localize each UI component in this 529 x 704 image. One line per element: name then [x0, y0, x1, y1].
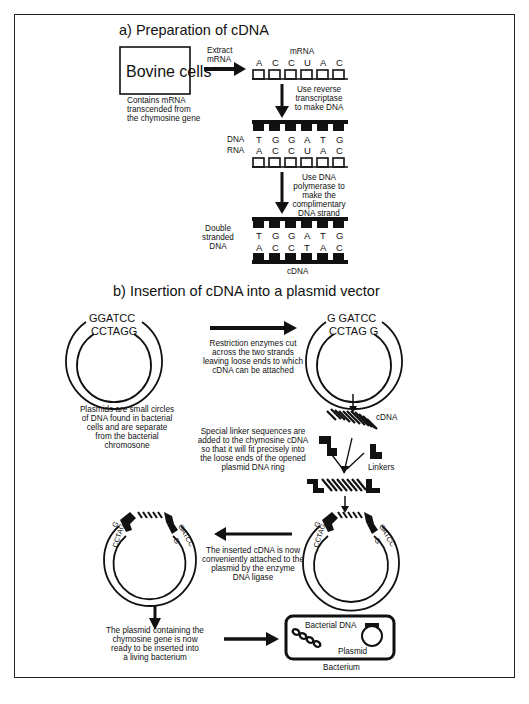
svg-text:DNA ligase: DNA ligase [233, 573, 274, 582]
hybrid-rna-bases: A C C U A C [256, 145, 343, 156]
svg-text:so that it will fit precisely: so that it will fit precisely into [201, 445, 305, 454]
svg-text:T: T [320, 134, 326, 145]
svg-text:the loose ends of the opened: the loose ends of the opened [200, 454, 306, 463]
svg-text:Special linker sequences are: Special linker sequences are [201, 427, 306, 436]
svg-text:leaving loose ends to which: leaving loose ends to which [203, 357, 304, 366]
svg-text:G: G [336, 134, 343, 145]
cdna-diagram: a) Preparation of cDNA Bovine cells Cont… [0, 0, 529, 704]
svg-text:G: G [336, 230, 343, 241]
plasmid-in-bacterium-icon [362, 623, 382, 646]
plasmid-with-insert-right: CCTAG G GATCC G [303, 512, 399, 611]
cdna-label-b: cDNA [376, 413, 398, 422]
hybrid-rna-label: RNA [227, 146, 245, 155]
linkers-label: Linkers [368, 463, 394, 472]
reverse-transcriptase-caption: Use reverse transcriptase to make DNA [295, 85, 344, 112]
mrna-label: mRNA [290, 47, 315, 56]
svg-text:G: G [288, 134, 295, 145]
svg-text:C: C [288, 57, 295, 68]
plasmid-label: Plasmid [338, 647, 368, 656]
polymerase-caption: Use DNA polymerase to make the complimen… [292, 173, 346, 218]
ds-top-strand [252, 217, 348, 228]
svg-text:C: C [336, 242, 343, 253]
svg-text:T: T [256, 230, 262, 241]
svg-text:chromosone: chromosone [104, 441, 150, 450]
bovine-cells-label: Bovine cells [126, 63, 211, 80]
section-a-title: a) Preparation of cDNA [119, 22, 269, 38]
plasmid-caption: Plasmids are small circles of DNA found … [80, 405, 174, 450]
plasmid1-bottom-seq: CCTAGG [91, 325, 137, 337]
svg-text:C: C [272, 145, 279, 156]
svg-text:ready to be inserted into: ready to be inserted into [111, 644, 199, 653]
svg-text:Use DNA: Use DNA [302, 173, 337, 182]
plasmid1-top-seq: GGATCC [89, 312, 135, 324]
restriction-caption: Restriction enzymes cut across the two s… [203, 339, 304, 375]
ds-bottom-bases: A C C T A C [256, 242, 343, 253]
plasmid-with-insert-left: CCTAG G GATCC G [104, 512, 196, 606]
svg-text:Restriction enzymes cut: Restriction enzymes cut [210, 339, 298, 348]
cdna-with-linkers [307, 479, 380, 493]
linker-right-icon [370, 444, 382, 459]
svg-text:cells and are separate: cells and are separate [87, 423, 168, 432]
svg-text:conveniently attached to the: conveniently attached to the [202, 555, 304, 564]
svg-text:T: T [304, 242, 310, 253]
svg-text:mRNA: mRNA [207, 55, 232, 64]
svg-text:stranded: stranded [202, 233, 234, 242]
svg-text:added to the chymosine cDNA: added to the chymosine cDNA [198, 436, 309, 445]
bacterial-dna-label: Bacterial DNA [305, 621, 357, 630]
svg-text:G: G [272, 230, 279, 241]
bacterial-dna-icon [292, 628, 322, 648]
svg-text:A: A [320, 242, 327, 253]
cdna-label-a: cDNA [287, 267, 309, 276]
svg-text:make the: make the [302, 191, 336, 200]
svg-text:Plasmids are small circles: Plasmids are small circles [80, 405, 174, 414]
svg-text:C: C [336, 57, 343, 68]
svg-text:Contains mRNA: Contains mRNA [127, 96, 186, 105]
cell-caption: Contains mRNA transcended from the chymo… [127, 96, 201, 123]
svg-text:transcriptase: transcriptase [296, 94, 343, 103]
svg-text:to make DNA: to make DNA [295, 103, 344, 112]
hybrid-dna-bases: T G G A T G [256, 134, 343, 145]
svg-text:The inserted cDNA is now: The inserted cDNA is now [206, 546, 300, 555]
svg-text:of DNA found in bacterial: of DNA found in bacterial [82, 414, 173, 423]
svg-text:C: C [272, 57, 279, 68]
cdna-fragment [327, 409, 377, 429]
svg-text:A: A [320, 145, 327, 156]
svg-text:T: T [256, 134, 262, 145]
svg-text:Double: Double [205, 224, 231, 233]
svg-text:The plasmid containing the: The plasmid containing the [106, 626, 204, 635]
ds-bottom-strand [252, 253, 348, 264]
mrna-strand [252, 70, 348, 79]
svg-text:transcended from: transcended from [127, 105, 191, 114]
svg-text:A: A [320, 57, 327, 68]
svg-text:T: T [320, 230, 326, 241]
svg-text:across the two strands: across the two strands [212, 348, 294, 357]
svg-text:plasmid DNA ring: plasmid DNA ring [221, 463, 285, 472]
svg-text:A: A [256, 145, 263, 156]
svg-text:chymosine gene is now: chymosine gene is now [112, 635, 197, 644]
svg-text:A: A [304, 134, 311, 145]
svg-text:A: A [304, 230, 311, 241]
final-caption: The plasmid containing the chymosine gen… [106, 626, 204, 662]
svg-text:Use reverse: Use reverse [297, 85, 342, 94]
extract-label: Extract [207, 46, 233, 55]
linker-left-icon [319, 436, 337, 456]
mrna-bases: A C C U A C [256, 57, 343, 68]
ligase-caption: The inserted cDNA is now conveniently at… [202, 546, 304, 582]
svg-text:DNA strand: DNA strand [298, 209, 340, 218]
svg-text:a living bacterium: a living bacterium [123, 653, 187, 662]
svg-text:the chymosine gene: the chymosine gene [127, 114, 201, 123]
ds-top-bases: T G G A T G [256, 230, 343, 241]
section-b-title: b) Insertion of cDNA into a plasmid vect… [113, 283, 380, 299]
plasmid2-top-seq: G GATCC [327, 312, 376, 324]
svg-text:from the bacterial: from the bacterial [95, 432, 158, 441]
svg-text:complimentary: complimentary [292, 200, 346, 209]
svg-text:C: C [288, 145, 295, 156]
plasmid2-bottom-seq: CCTAG G [329, 325, 378, 337]
svg-text:C: C [272, 242, 279, 253]
hybrid-dna-label: DNA [227, 135, 245, 144]
svg-text:U: U [304, 145, 311, 156]
svg-text:DNA: DNA [209, 242, 227, 251]
svg-text:G: G [288, 230, 295, 241]
extract-arrowhead-icon [234, 62, 246, 76]
svg-text:C: C [336, 145, 343, 156]
